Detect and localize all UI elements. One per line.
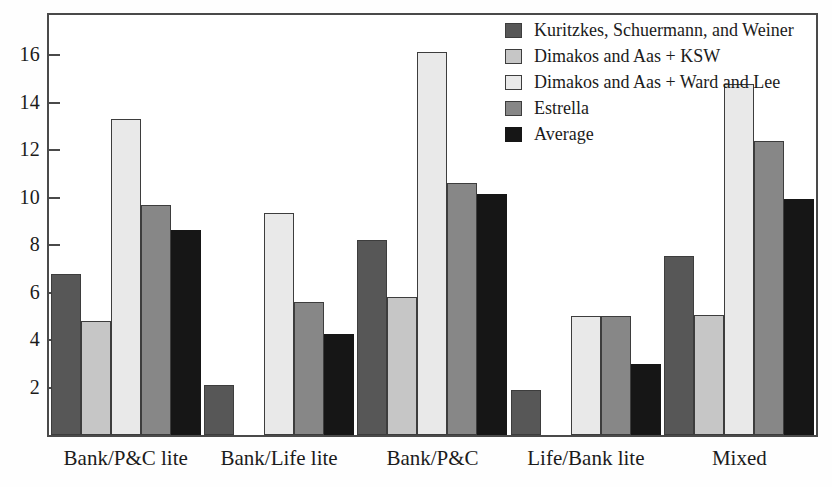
legend-item: Kuritzkes, Schuermann, and Weiner	[505, 18, 815, 42]
y-tick-label: 12	[0, 136, 40, 162]
bar	[81, 321, 111, 435]
bar	[387, 297, 417, 435]
legend-swatch-icon	[505, 75, 522, 90]
y-tick-label: 4	[0, 326, 40, 352]
bar-group	[356, 15, 509, 435]
bar	[664, 256, 694, 435]
legend-label: Average	[534, 123, 594, 145]
bar	[51, 274, 81, 435]
bar	[264, 213, 294, 435]
legend-swatch-icon	[505, 101, 522, 116]
legend-label: Estrella	[534, 97, 589, 119]
bar	[511, 390, 541, 435]
x-tick-label: Bank/Life lite	[202, 443, 355, 473]
bar	[171, 230, 201, 435]
bar	[111, 119, 141, 435]
legend-label: Kuritzkes, Schuermann, and Weiner	[534, 19, 794, 41]
bar	[631, 364, 661, 435]
bar	[417, 52, 447, 435]
x-tick-label: Bank/P&C	[356, 443, 509, 473]
x-tick-label: Bank/P&C lite	[49, 443, 202, 473]
legend-swatch-icon	[505, 49, 522, 64]
legend-label: Dimakos and Aas + Ward and Lee	[534, 71, 780, 93]
legend-item: Average	[505, 122, 815, 146]
y-tick-label: 10	[0, 184, 40, 210]
y-tick-label: 16	[0, 41, 40, 67]
bar	[141, 205, 171, 435]
x-tick-label: Mixed	[663, 443, 816, 473]
y-tick-label: 8	[0, 231, 40, 257]
bar	[294, 302, 324, 435]
bar	[447, 183, 477, 435]
y-tick-label: 2	[0, 374, 40, 400]
bar	[324, 334, 354, 435]
legend-label: Dimakos and Aas + KSW	[534, 45, 720, 67]
bar	[694, 315, 724, 435]
x-tick-label: Life/Bank lite	[509, 443, 662, 473]
bar-group	[202, 15, 355, 435]
legend-item: Estrella	[505, 96, 815, 120]
bar	[754, 141, 784, 435]
bar	[204, 385, 234, 435]
bar	[571, 316, 601, 435]
bar	[784, 199, 814, 435]
bar	[477, 194, 507, 435]
y-tick-label: 14	[0, 89, 40, 115]
legend-swatch-icon	[505, 127, 522, 142]
legend-swatch-icon	[505, 23, 522, 38]
bar	[601, 316, 631, 435]
bar-chart: 161412108642 Bank/P&C liteBank/Life lite…	[0, 0, 832, 487]
x-axis: Bank/P&C liteBank/Life liteBank/P&CLife/…	[47, 441, 818, 485]
bar-group	[49, 15, 202, 435]
bar	[357, 240, 387, 435]
legend-item: Dimakos and Aas + Ward and Lee	[505, 70, 815, 94]
legend: Kuritzkes, Schuermann, and WeinerDimakos…	[505, 14, 815, 148]
y-tick-label: 6	[0, 279, 40, 305]
legend-item: Dimakos and Aas + KSW	[505, 44, 815, 68]
